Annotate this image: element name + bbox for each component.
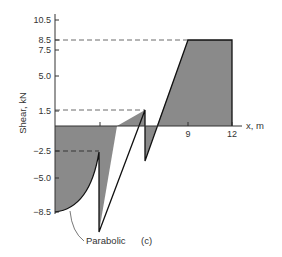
x-axis-title: x, m: [246, 120, 264, 131]
negative-triangle-1: [99, 126, 117, 232]
x-tick-label: 12: [227, 129, 237, 139]
shear-diagram: 10.5 8.5 7.5 5.0 1.5 −2.5 −5.0 −8.5 9 12…: [0, 0, 282, 257]
y-tick-label: 7.5: [38, 45, 51, 55]
y-tick-label: 5.0: [38, 71, 51, 81]
y-tick-label: −8.5: [33, 207, 51, 217]
y-tick-label: −5.0: [33, 173, 51, 183]
annotation-leader: [70, 211, 84, 241]
parabolic-region: [55, 126, 99, 212]
positive-trapezoid: [157, 40, 232, 126]
y-tick-label: 10.5: [33, 15, 51, 25]
y-tick-label: 1.5: [38, 106, 51, 116]
parabolic-annotation: Parabolic: [86, 235, 126, 246]
y-axis-title: Shear, kN: [17, 92, 28, 134]
panel-label: (c): [141, 235, 152, 246]
x-tick-label: 9: [185, 129, 190, 139]
positive-triangle-1: [117, 110, 145, 126]
y-tick-label: −2.5: [33, 146, 51, 156]
y-tick-label: 8.5: [38, 35, 51, 45]
